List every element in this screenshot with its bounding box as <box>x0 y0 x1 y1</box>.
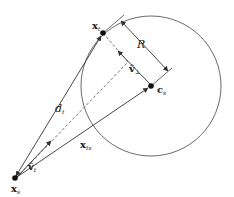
label-d-t: dt <box>55 102 65 115</box>
source-point <box>12 175 18 181</box>
diagram-canvas: xt R v̂⊥ cs dt xts v̂t xs <box>0 0 234 197</box>
tangent-point <box>100 30 106 36</box>
label-v-t: v̂t <box>27 161 37 173</box>
label-x-t: xt <box>92 20 101 32</box>
label-x-s: xs <box>11 183 20 195</box>
diagram-svg: xt R v̂⊥ cs dt xts v̂t xs <box>0 0 234 197</box>
label-c-s: cs <box>157 84 166 96</box>
label-v-perp: v̂⊥ <box>128 63 140 75</box>
label-radius: R <box>136 38 145 51</box>
center-point <box>148 83 154 89</box>
label-x-ts: xts <box>80 139 91 151</box>
tangent-line-extension <box>103 15 124 33</box>
